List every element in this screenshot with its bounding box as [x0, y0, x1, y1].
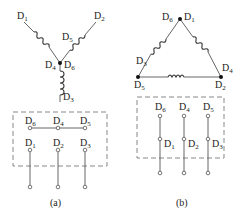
supply-terminal-2: [182, 171, 186, 175]
coil-d2-d5: [168, 75, 184, 77]
coil-d1-d4: [193, 37, 208, 52]
label-d3: D3: [63, 91, 74, 104]
star-connection-diagram: D1 D2 D5 D4 D6 D3: [17, 10, 105, 104]
coil-d1-d4: [34, 32, 49, 47]
label-d5: D5: [62, 31, 73, 44]
label-d1: D1: [17, 10, 28, 23]
delta-connection-diagram: D6 D1 D3 D4 D5 D2: [134, 11, 233, 92]
supply-terminal-3: [206, 171, 210, 175]
wire-d1: [24, 22, 34, 32]
star-terminal-box: D6 D4 D5 D1 D2 D3: [13, 112, 107, 189]
terminal-d5: [83, 126, 87, 130]
terminal-d3: [206, 137, 210, 141]
terminal-d1: [28, 148, 32, 152]
label-d3: D3: [136, 55, 147, 68]
supply-terminal-1: [158, 171, 162, 175]
wire-d2: [85, 22, 96, 35]
label-d2: D2: [215, 79, 226, 92]
delta-vertex-top: [178, 17, 182, 21]
caption-b: (b): [176, 197, 188, 209]
terminal-label-d2: D2: [188, 138, 199, 151]
terminal-label-d6: D6: [155, 101, 166, 114]
terminal-label-d1: D1: [164, 138, 175, 151]
label-d1: D1: [184, 11, 195, 24]
terminal-d5: [206, 114, 210, 118]
label-d4: D4: [45, 59, 56, 72]
star-point: [58, 61, 62, 65]
motor-winding-diagram: D1 D2 D5 D4 D6 D3 D6 D4 D5 D1 D2 D3 (a): [0, 0, 239, 214]
terminal-d6: [158, 114, 162, 118]
supply-terminal-3: [83, 185, 87, 189]
terminal-label-d4: D4: [179, 101, 190, 114]
label-d6: D6: [162, 11, 173, 24]
supply-terminal-1: [28, 185, 32, 189]
terminal-d6: [28, 126, 32, 130]
label-d6: D6: [64, 59, 75, 72]
terminal-d4: [56, 126, 60, 130]
delta-terminal-box: D6 D4 D5 D1 D2 D3: [137, 97, 224, 175]
wire-left-upper: [166, 19, 180, 39]
terminal-d3: [83, 148, 87, 152]
wire-right-lower: [208, 52, 221, 77]
coil-d3-d6: [151, 39, 166, 54]
label-d4: D4: [222, 62, 233, 75]
supply-terminal-2: [56, 185, 60, 189]
label-d2: D2: [94, 10, 105, 23]
label-d5: D5: [134, 79, 145, 92]
terminal-d2: [56, 148, 60, 152]
terminal-label-d3: D3: [212, 138, 223, 151]
terminal-label-d5: D5: [203, 101, 214, 114]
caption-a: (a): [50, 197, 61, 209]
terminal-d2: [182, 137, 186, 141]
terminal-d4: [182, 114, 186, 118]
terminal-d1: [158, 137, 162, 141]
